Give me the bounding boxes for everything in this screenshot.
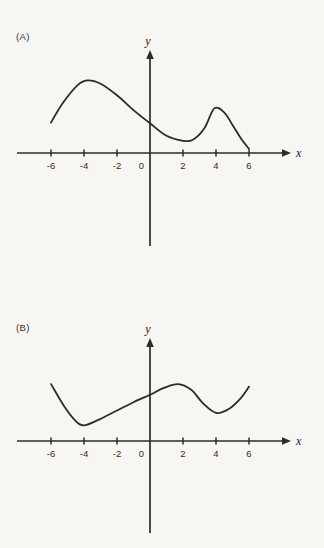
x-tick-label: 4 bbox=[213, 448, 218, 459]
x-tick-label: 6 bbox=[246, 448, 251, 459]
y-axis-label: y bbox=[144, 322, 151, 336]
figure-b-plot: -6-4-20246xy bbox=[0, 274, 324, 548]
x-tick-label: -6 bbox=[47, 448, 55, 459]
x-tick-label: 2 bbox=[180, 160, 185, 171]
x-tick-label: 4 bbox=[213, 160, 218, 171]
x-tick-label: -2 bbox=[113, 448, 121, 459]
x-tick-label: -4 bbox=[80, 448, 88, 459]
x-tick-label: -4 bbox=[80, 160, 88, 171]
y-axis-label: y bbox=[144, 34, 151, 48]
x-tick-label: 0 bbox=[139, 160, 144, 171]
page: (A) -6-4-20246xy (B) -6-4-20246xy bbox=[0, 0, 324, 548]
y-axis-arrow-icon bbox=[146, 50, 154, 59]
x-tick-label: 2 bbox=[180, 448, 185, 459]
x-axis-label: x bbox=[295, 146, 302, 160]
x-axis-arrow-icon bbox=[282, 437, 291, 445]
x-axis-label: x bbox=[295, 434, 302, 448]
x-tick-label: 0 bbox=[139, 448, 144, 459]
figure-a-plot: -6-4-20246xy bbox=[0, 0, 324, 274]
y-axis-arrow-icon bbox=[146, 338, 154, 347]
x-tick-label: 6 bbox=[246, 160, 251, 171]
x-tick-label: -2 bbox=[113, 160, 121, 171]
x-axis-arrow-icon bbox=[282, 149, 291, 157]
x-tick-label: -6 bbox=[47, 160, 55, 171]
